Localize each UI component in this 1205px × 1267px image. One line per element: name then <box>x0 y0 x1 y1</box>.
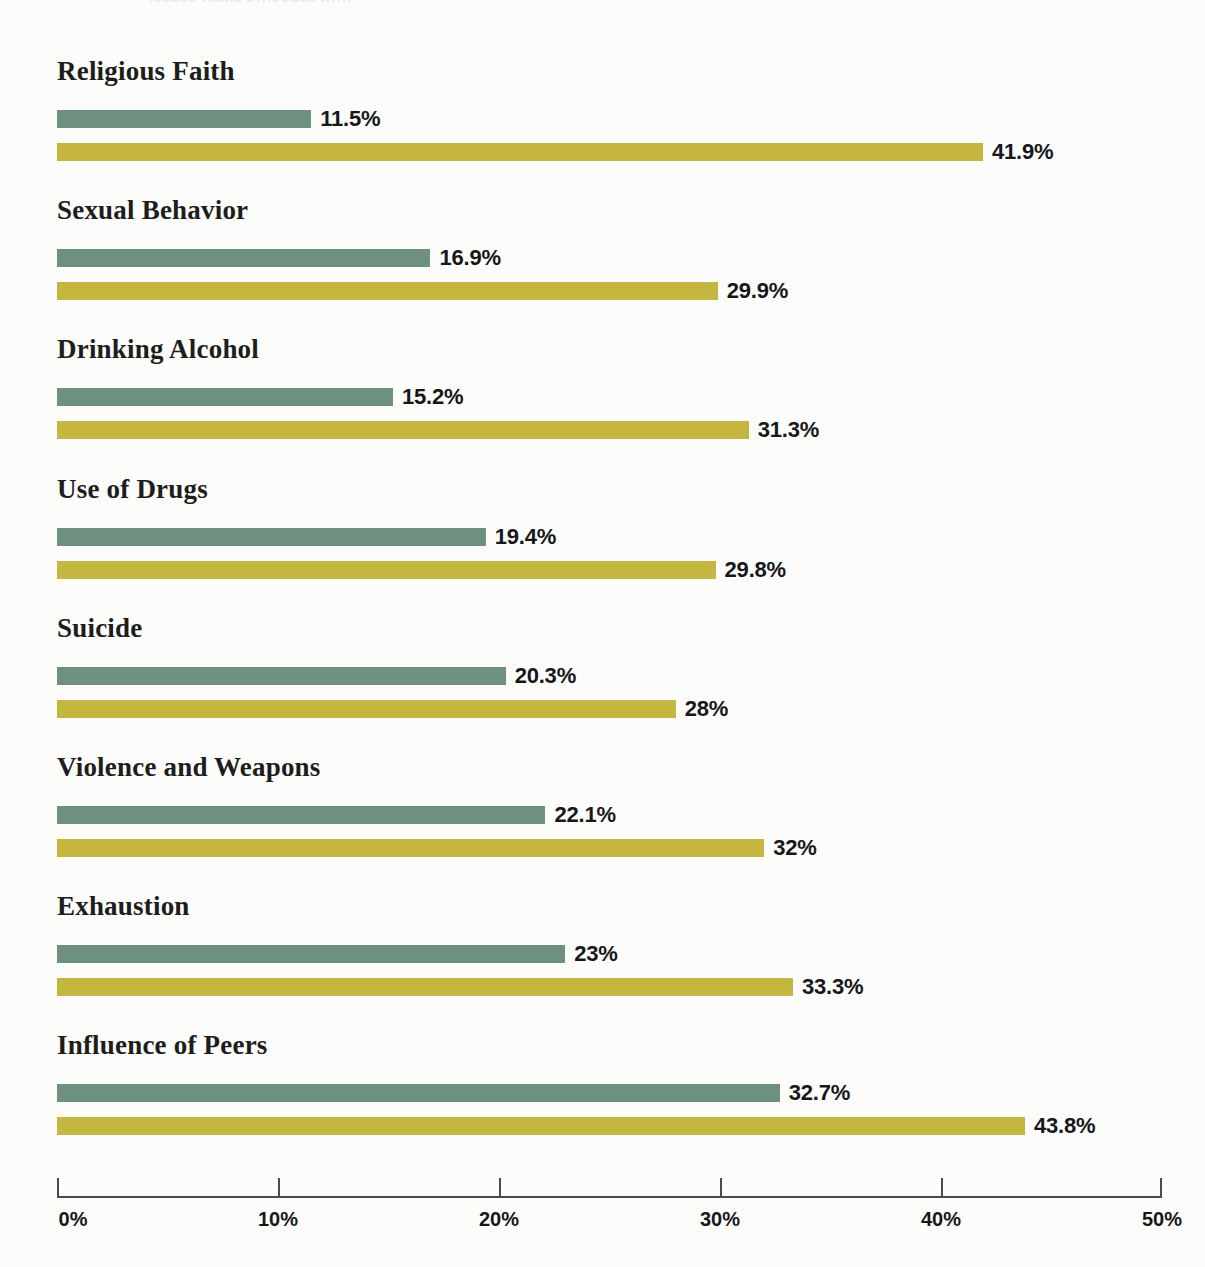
bar-value-label: 15.2% <box>402 384 463 410</box>
bar-series-green <box>57 806 545 824</box>
category-label: Sexual Behavior <box>57 195 248 226</box>
x-axis-tick-label: 20% <box>479 1208 519 1231</box>
bar-chart-page: ISSUES TEENS STRUGGLE WITH Religious Fai… <box>0 0 1205 1267</box>
x-axis-tick-label: 40% <box>921 1208 961 1231</box>
x-axis-tick <box>720 1178 722 1197</box>
bar-value-label: 22.1% <box>554 802 615 828</box>
bar-value-label: 29.9% <box>727 278 788 304</box>
bar-value-label: 32% <box>773 835 816 861</box>
bar-value-label: 33.3% <box>802 974 863 1000</box>
bar-series-green <box>57 945 565 963</box>
category-label: Influence of Peers <box>57 1030 268 1061</box>
x-axis: 0%10%20%30%40%50% <box>0 1178 1205 1258</box>
bar-series-gold <box>57 421 749 439</box>
bar-value-label: 11.5% <box>320 106 380 132</box>
bar-series-gold <box>57 1117 1025 1135</box>
bar-value-label: 32.7% <box>789 1080 850 1106</box>
bar-value-label: 20.3% <box>515 663 576 689</box>
bar-value-label: 19.4% <box>495 524 556 550</box>
category-label: Religious Faith <box>57 56 235 87</box>
bar-value-label: 16.9% <box>439 245 500 271</box>
bar-series-gold <box>57 700 676 718</box>
x-axis-tick <box>57 1178 59 1197</box>
bar-series-green <box>57 1084 780 1102</box>
x-axis-tick-label: 0% <box>59 1208 88 1231</box>
x-axis-line <box>57 1196 1162 1198</box>
x-axis-tick <box>1160 1178 1162 1197</box>
category-label: Use of Drugs <box>57 474 208 505</box>
bar-series-green <box>57 110 311 128</box>
x-axis-tick-label: 10% <box>258 1208 298 1231</box>
bar-series-green <box>57 388 393 406</box>
bar-series-gold <box>57 282 718 300</box>
bar-value-label: 31.3% <box>758 417 819 443</box>
x-axis-tick <box>278 1178 280 1197</box>
x-axis-tick <box>941 1178 943 1197</box>
category-label: Drinking Alcohol <box>57 334 259 365</box>
category-label: Violence and Weapons <box>57 752 321 783</box>
bar-series-gold <box>57 143 983 161</box>
bar-series-gold <box>57 839 764 857</box>
x-axis-tick <box>499 1178 501 1197</box>
bar-value-label: 28% <box>685 696 728 722</box>
bar-value-label: 43.8% <box>1034 1113 1095 1139</box>
x-axis-tick-label: 30% <box>700 1208 740 1231</box>
category-label: Suicide <box>57 613 142 644</box>
x-axis-tick-label: 50% <box>1142 1208 1182 1231</box>
bar-value-label: 29.8% <box>725 557 786 583</box>
bar-series-green <box>57 249 430 267</box>
bar-series-green <box>57 528 486 546</box>
bar-value-label: 23% <box>574 941 617 967</box>
top-cutoff-text: ISSUES TEENS STRUGGLE WITH <box>150 0 480 5</box>
bar-series-gold <box>57 561 716 579</box>
category-label: Exhaustion <box>57 891 190 922</box>
bar-series-green <box>57 667 506 685</box>
bar-value-label: 41.9% <box>992 139 1053 165</box>
bar-series-gold <box>57 978 793 996</box>
